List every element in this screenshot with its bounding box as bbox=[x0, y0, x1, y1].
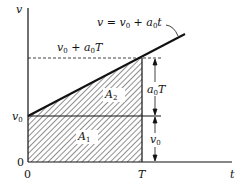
tick-t-label: T bbox=[138, 168, 147, 181]
origin-x-label: 0 bbox=[24, 168, 31, 181]
dim-upper-label: a0T bbox=[147, 83, 167, 97]
equation-leader bbox=[166, 25, 178, 36]
line-equation: v = v0 + a0t bbox=[97, 16, 162, 30]
top-level-label: v0 + a0T bbox=[57, 41, 104, 55]
dim-lower-label: v0 bbox=[150, 133, 161, 147]
y-axis-label: v bbox=[16, 3, 23, 16]
velocity-time-diagram: v t 0 0 v0 T v = v0 + a0t v0 + a0T A2 A1… bbox=[0, 0, 249, 184]
origin-y-label: 0 bbox=[17, 156, 24, 169]
x-axis-label: t bbox=[230, 168, 235, 181]
tick-v0-label: v0 bbox=[12, 110, 23, 124]
